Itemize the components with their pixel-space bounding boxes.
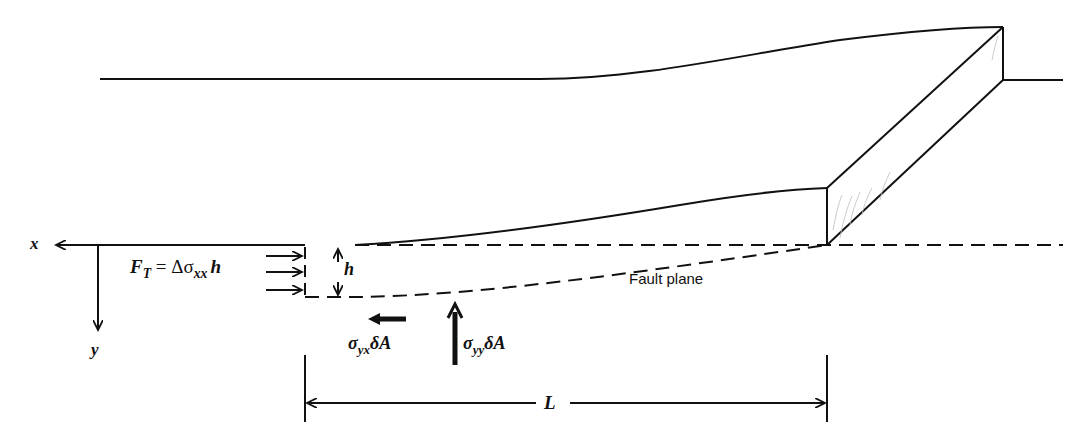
shear-subscript: yx [358, 342, 370, 357]
sigma-symbol: σ [463, 333, 473, 353]
force-subscript: T [143, 266, 151, 281]
y-axis-label: y [91, 340, 99, 360]
ground-surface [100, 27, 1063, 80]
block-shading [833, 36, 998, 238]
stress-subscript: xx [194, 266, 208, 281]
thickness-label: h [344, 259, 354, 280]
area-element: δA [484, 333, 505, 353]
thrust-sheet-diagram [0, 0, 1089, 443]
tectonic-force-label: FT = Δσxxh [130, 256, 221, 282]
shear-stress-arrow [368, 313, 406, 325]
length-label: L [544, 392, 556, 414]
shear-stress-label: σyxδA [348, 333, 391, 358]
area-element: δA [370, 333, 391, 353]
normal-stress-arrow [448, 304, 462, 365]
tectonic-force-arrows [266, 256, 302, 290]
x-axis-label: x [30, 234, 39, 254]
thickness-symbol: h [210, 256, 221, 277]
sigma-symbol: σ [348, 333, 358, 353]
normal-subscript: yy [473, 342, 485, 357]
force-equation: = Δσ [151, 256, 194, 277]
thrust-block [355, 27, 1003, 245]
fault-plane-label: Fault plane [629, 270, 703, 287]
force-symbol: F [130, 256, 143, 277]
normal-stress-label: σyyδA [463, 333, 505, 358]
length-dimension [305, 355, 827, 422]
